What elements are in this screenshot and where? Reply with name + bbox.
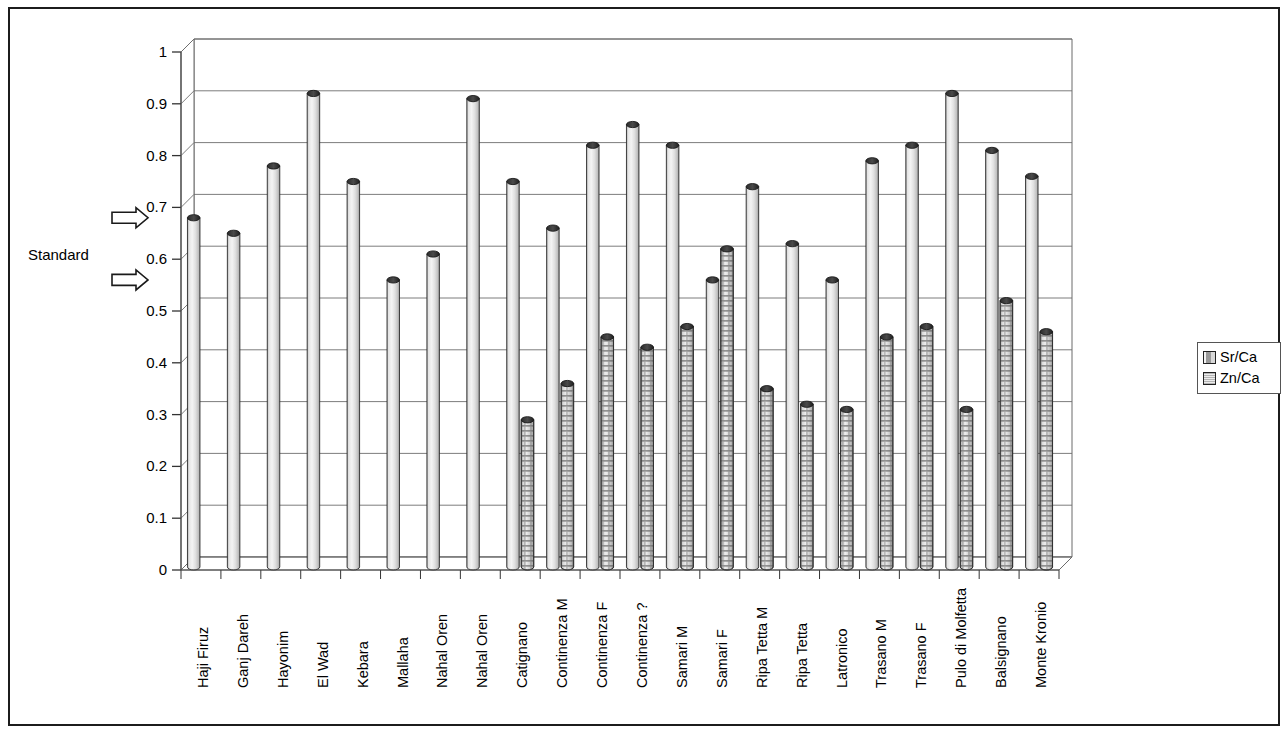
y-axis-tick-label: 0.5 <box>119 303 167 318</box>
legend-swatch-zn-ca-icon <box>1203 372 1216 385</box>
x-axis-category-label: Samari F <box>715 629 730 688</box>
y-axis-tick-label: 0.8 <box>119 148 167 163</box>
x-axis-category-label: Trasano M <box>874 619 889 688</box>
x-axis-category-label: Continenza ? <box>635 603 650 688</box>
y-axis-tick-label: 0.7 <box>119 199 167 214</box>
x-axis-category-label: Ganj Dareh <box>236 614 251 688</box>
legend-item-sr-ca: Sr/Ca <box>1203 347 1275 368</box>
x-axis-category-label: Kebara <box>356 641 371 688</box>
x-axis-category-label: Hayonim <box>276 631 291 688</box>
x-axis-category-label: Ripa Tetta M <box>755 607 770 688</box>
x-axis-category-label: Continenza M <box>555 599 570 688</box>
legend-label-zn-ca: Zn/Ca <box>1220 371 1260 386</box>
x-axis-category-label: Catignano <box>515 622 530 688</box>
x-axis-category-label: Mallaha <box>396 637 411 688</box>
x-axis-category-label: Nahal Oren <box>475 614 490 688</box>
y-axis-tick-label: 0.3 <box>119 407 167 422</box>
x-axis-category-label: Balsignano <box>994 616 1009 688</box>
x-axis-category-label: Nahal Oren <box>435 614 450 688</box>
x-axis-category-label: Latronico <box>835 628 850 688</box>
legend-item-zn-ca: Zn/Ca <box>1203 368 1275 389</box>
y-axis-tick-label: 0.6 <box>119 251 167 266</box>
x-axis-category-label: El Wad <box>316 642 331 688</box>
y-axis-tick-label: 0.4 <box>119 355 167 370</box>
chart-screenshot: 00.10.20.30.40.50.60.70.80.91 Haji Firuz… <box>0 0 1288 735</box>
x-axis-category-label: Samari M <box>675 626 690 688</box>
standard-annotation-label: Standard <box>28 246 89 263</box>
x-axis-category-label: Haji Firuz <box>196 627 211 688</box>
chart-legend: Sr/Ca Zn/Ca <box>1197 342 1281 394</box>
x-axis-category-label: Ripa Tetta <box>795 623 810 688</box>
y-axis-tick-label: 0 <box>119 562 167 577</box>
y-axis-tick-label: 0.2 <box>119 458 167 473</box>
y-axis-tick-label: 0.9 <box>119 96 167 111</box>
bar-chart: 00.10.20.30.40.50.60.70.80.91 Haji Firuz… <box>0 0 1288 735</box>
x-axis-category-label: Pulo di Molfetta <box>954 588 969 688</box>
y-axis-tick-label: 1 <box>119 44 167 59</box>
x-axis-category-label: Monte Kronio <box>1034 602 1049 688</box>
y-axis-tick-label: 0.1 <box>119 510 167 525</box>
x-axis-category-label: Trasano F <box>914 622 929 688</box>
legend-label-sr-ca: Sr/Ca <box>1220 350 1257 365</box>
x-axis-category-label: Continenza F <box>595 602 610 688</box>
legend-swatch-sr-ca-icon <box>1203 351 1216 364</box>
